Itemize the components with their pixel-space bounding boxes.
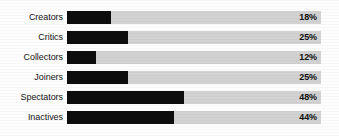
bar-value-label: 18% xyxy=(299,11,317,24)
bar-track: 25% xyxy=(67,71,321,84)
bar-category-label: Joiners xyxy=(0,71,67,84)
bar-value-label: 48% xyxy=(299,91,317,104)
bar-value-label: 25% xyxy=(299,31,317,44)
bar-value-label: 44% xyxy=(299,111,317,124)
bar-chart: Creators 18% Critics 25% Collectors 12% … xyxy=(0,0,339,136)
bar-fill xyxy=(67,51,96,64)
bar-category-label: Creators xyxy=(0,11,67,24)
bar-fill xyxy=(67,91,184,104)
bar-track: 44% xyxy=(67,111,321,124)
bar-category-label: Critics xyxy=(0,31,67,44)
bar-row: Spectators 48% xyxy=(0,91,339,104)
bar-fill xyxy=(67,11,111,24)
bar-row: Collectors 12% xyxy=(0,51,339,64)
bar-fill xyxy=(67,111,174,124)
bar-row: Critics 25% xyxy=(0,31,339,44)
bar-value-label: 25% xyxy=(299,71,317,84)
bar-category-label: Spectators xyxy=(0,91,67,104)
bar-row: Joiners 25% xyxy=(0,71,339,84)
bar-fill xyxy=(67,71,128,84)
bar-track: 25% xyxy=(67,31,321,44)
bar-row: Inactives 44% xyxy=(0,111,339,124)
bar-fill xyxy=(67,31,128,44)
bar-row: Creators 18% xyxy=(0,11,339,24)
bar-category-label: Inactives xyxy=(0,111,67,124)
bar-track: 18% xyxy=(67,11,321,24)
bar-track: 12% xyxy=(67,51,321,64)
bar-track: 48% xyxy=(67,91,321,104)
bar-category-label: Collectors xyxy=(0,51,67,64)
bar-value-label: 12% xyxy=(299,51,317,64)
